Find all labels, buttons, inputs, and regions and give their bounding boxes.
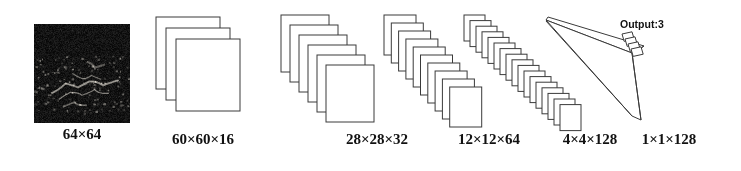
output-class-cell	[631, 47, 643, 57]
cnn-architecture-diagram: 64×64 60×60×16 28×28×32 12×12×64 4×4×128…	[0, 0, 741, 171]
label-input-dims: 64×64	[34, 126, 130, 143]
label-fc-dims: 1×1×128	[614, 131, 724, 148]
feature-map-plate	[176, 39, 240, 111]
feature-map-plate	[450, 87, 482, 127]
label-conv3-dims: 12×12×64	[434, 131, 544, 148]
label-conv1-dims: 60×60×16	[138, 131, 268, 148]
feature-map-plate	[326, 65, 374, 122]
feature-map-plate	[560, 105, 581, 131]
label-conv2-dims: 28×28×32	[322, 131, 432, 148]
feature-map-stack-conv1	[156, 17, 240, 111]
label-output-classes: Output:3	[620, 18, 664, 30]
feature-map-stack-conv2	[281, 15, 374, 122]
